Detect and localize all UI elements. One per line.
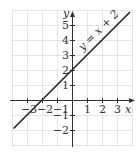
- y-axis: [70, 11, 75, 147]
- y-tick-label: 3: [62, 49, 69, 62]
- y-axis-label: y: [62, 7, 70, 20]
- x-tick-label: 3: [114, 103, 121, 116]
- y-tick-label: −2: [53, 124, 69, 137]
- y-tick-label: 2: [62, 64, 69, 77]
- y-axis-arrow-icon: [70, 11, 75, 17]
- equation-label: y = x + 2: [75, 8, 122, 55]
- x-tick-label: 2: [99, 103, 106, 116]
- y-tick-label: −1: [53, 109, 69, 122]
- y-tick-label: 1: [62, 79, 69, 92]
- x-tick-label: −2: [37, 103, 53, 116]
- y-tick-label: 4: [62, 34, 69, 47]
- y-tick-label: 5: [62, 19, 69, 32]
- graph-plot: −3 −2 −1 1 2 3 x 5 4 3 2 1 −1 −2 y y = x…: [0, 0, 140, 158]
- x-axis-label: x: [125, 103, 132, 116]
- x-tick-label: 1: [84, 103, 91, 116]
- x-tick-label: −3: [21, 103, 37, 116]
